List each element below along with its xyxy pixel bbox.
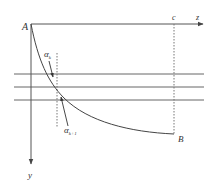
c-label: c [172,13,176,22]
end-point-label: B [178,134,184,144]
y-axis-label: y [27,170,32,180]
brachistochrone-diagram: A B z c y αk αk+1 [0,0,218,182]
alpha-k1-label: αk+1 [64,125,77,136]
alpha-k-arrow [49,61,53,77]
alpha-k1-subscript: k+1 [69,131,77,136]
alpha-k-label: αk [44,49,52,60]
curve-A-to-B [31,24,174,134]
z-axis-label: z [195,13,200,22]
origin-label: A [21,21,29,32]
alpha-k-subscript: k [49,55,52,60]
